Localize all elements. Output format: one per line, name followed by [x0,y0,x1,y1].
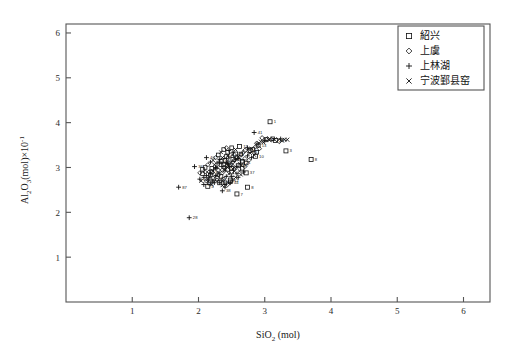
y-tick-label: 6 [56,28,61,38]
marker-cross [239,173,243,177]
x-tick-label: 6 [461,306,466,316]
legend: 紹兴上虞上林湖宁波鄞县窑 [398,26,484,90]
point-label: 36 [198,164,203,169]
x-axis-title: SiO2 (mol) [256,329,300,343]
legend-item-label: 上虞 [420,44,440,56]
point-label: 40 [210,155,215,160]
marker-plus [252,130,257,135]
y-tick-label: 2 [56,208,61,218]
marker-cross [285,138,289,142]
marker-square [309,157,313,161]
marker-plus [220,188,225,193]
marker-square [238,144,242,148]
legend-item-label: 上林湖 [420,59,450,71]
point-label: 46 [252,149,257,154]
point-label: 18 [242,163,247,168]
point-label: 54 [207,182,212,187]
marker-plus [192,164,197,169]
y-tick-label: 1 [56,253,61,263]
marker-square [235,192,239,196]
x-tick-label: 3 [263,306,268,316]
marker-square [284,149,288,153]
scatter-plot-figure: 123456123456SiO2 (mol)Al2O3(mol)×10-1111… [0,0,512,360]
legend-item-label: 宁波鄞县窑 [420,74,470,86]
y-axis: 123456 [56,28,72,262]
legend-item-label: 紹兴 [420,29,440,41]
point-label: 38 [226,188,231,193]
x-tick-label: 1 [130,306,135,316]
x-tick-label: 5 [395,306,400,316]
y-tick-label: 4 [56,118,61,128]
point-label: 37 [250,170,255,175]
point-label: 10 [259,154,264,159]
point-label: 7 [241,192,244,197]
point-label: 3 [290,148,293,153]
point-label: 8 [315,157,318,162]
x-axis: 123456 [130,297,466,316]
plot-canvas: 123456123456SiO2 (mol)Al2O3(mol)×10-1111… [0,0,512,360]
axis-titles: SiO2 (mol)Al2O3(mol)×10-1 [18,136,300,343]
point-label: 41 [258,130,263,135]
point-label: 28 [193,215,198,220]
x-tick-label: 4 [329,306,334,316]
point-label: 44 [234,180,239,185]
point-label: 1 [274,119,277,124]
marker-plus [176,185,181,190]
marker-square [244,171,248,175]
marker-square [246,185,250,189]
marker-square [268,120,272,124]
marker-diamond [206,163,210,167]
marker-plus [204,155,209,160]
point-label: 87 [182,185,187,190]
point-label: 22 [221,176,226,181]
x-tick-label: 2 [196,306,201,316]
marker-plus [187,215,192,220]
point-label: 8 [251,185,254,190]
marker-square [230,146,234,150]
marker-cross [234,148,238,152]
y-axis-title: Al2O3(mol)×10-1 [18,136,33,204]
y-tick-label: 5 [56,73,61,83]
point-label: 21 [246,160,251,165]
y-tick-label: 3 [56,163,61,173]
